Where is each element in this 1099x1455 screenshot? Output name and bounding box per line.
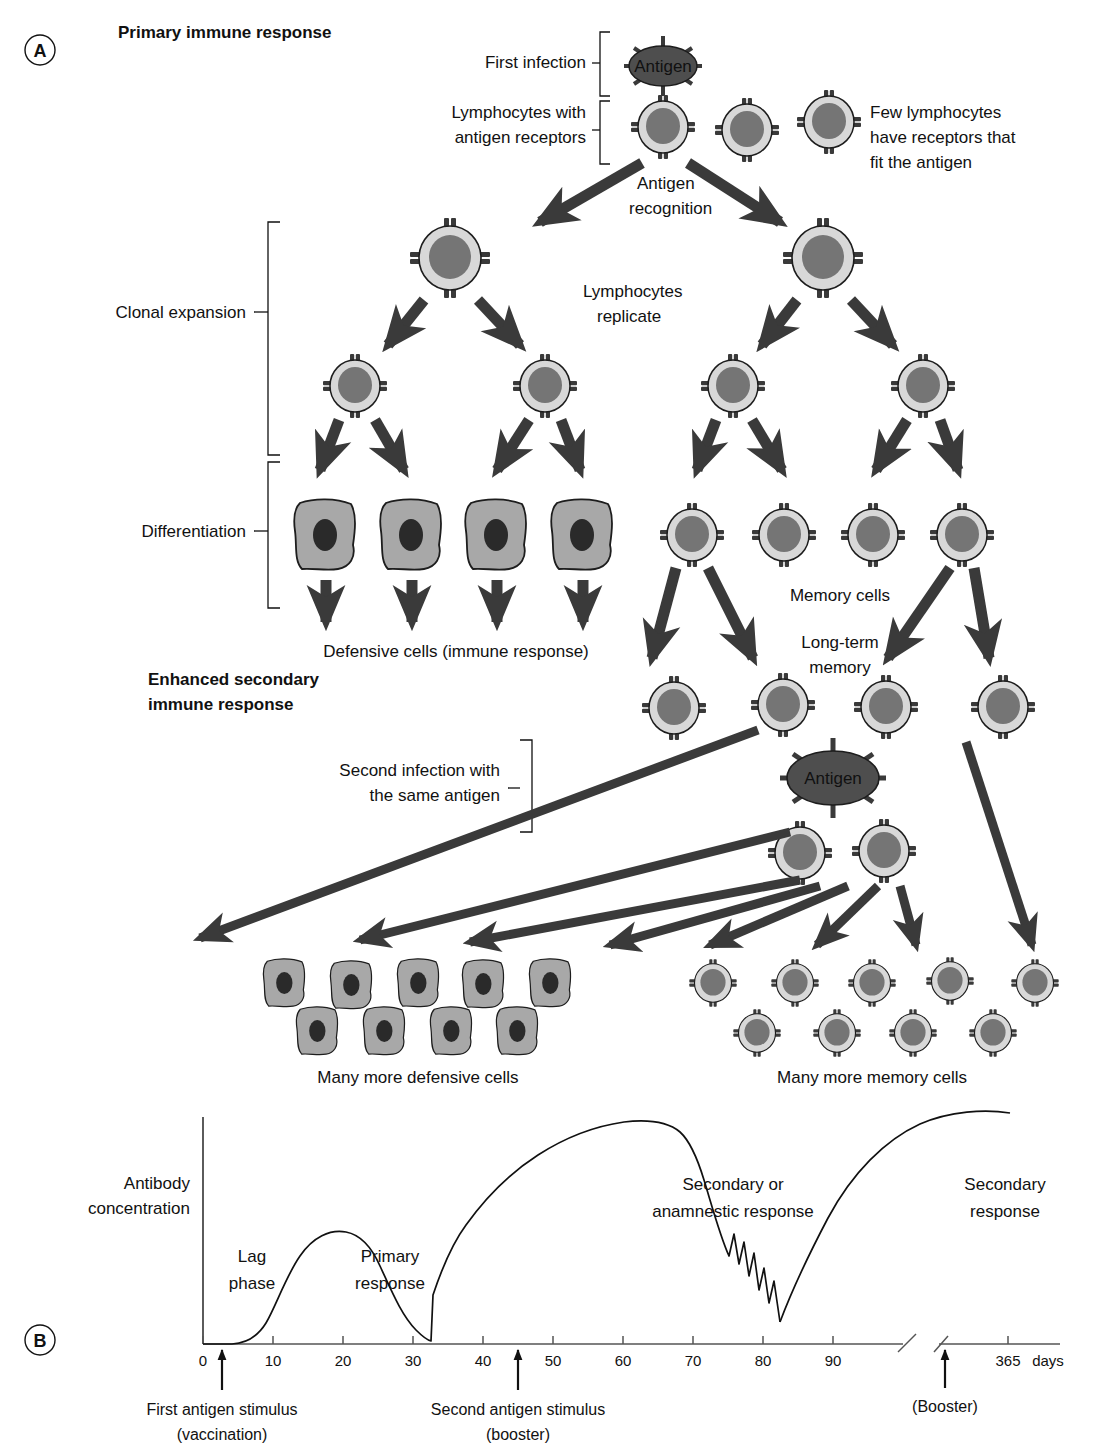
few-lymphocytes-line3: fit the antigen — [870, 153, 972, 172]
many-defensive-cell-3 — [397, 959, 438, 1007]
long-term-memory-cell-3 — [854, 675, 918, 739]
lymphocytes-replicate-line2: replicate — [597, 307, 661, 326]
arrow-left-g2-a2 — [375, 420, 404, 470]
annotation-anamnestic-line2: anamnestic response — [652, 1202, 814, 1221]
arrow-left-g2-b1 — [497, 420, 529, 470]
annotation-anamnestic-line1: Secondary or — [682, 1175, 783, 1194]
xtick-365: 365 — [995, 1352, 1020, 1369]
many-defensive-cell-7 — [363, 1007, 404, 1055]
chart-xlabel-days: days — [1032, 1352, 1064, 1369]
panel-letter-a: A — [25, 35, 55, 65]
arrow-recognition-left — [540, 163, 642, 222]
lymphocyte-unbound-2 — [797, 90, 861, 154]
enhanced-secondary-heading-line2: immune response — [148, 695, 294, 714]
many-memory-cell-7 — [813, 1009, 860, 1056]
antigen-top: Antigen — [624, 36, 702, 96]
arrow-left-g2-b2 — [561, 420, 580, 470]
lymphocytes-receptors-label-line2: antigen receptors — [455, 128, 586, 147]
lymphocyte-clone-left-gen2-b — [513, 354, 577, 418]
arrow-right-g2-a1 — [697, 420, 716, 470]
many-memory-cell-8 — [889, 1009, 936, 1056]
marker-second-stimulus-line1: Second antigen stimulus — [431, 1401, 605, 1418]
many-defensive-cell-5 — [529, 959, 570, 1007]
many-defensive-cell-9 — [496, 1007, 537, 1055]
annotation-lag-line2: phase — [229, 1274, 275, 1293]
xtick-30: 30 — [405, 1352, 422, 1369]
xtick-60: 60 — [615, 1352, 632, 1369]
many-defensive-cell-8 — [430, 1007, 471, 1055]
many-memory-cell-1 — [689, 959, 736, 1006]
many-memory-cell-3 — [848, 959, 895, 1006]
long-term-memory-cell-2 — [751, 673, 815, 737]
defensive-cell-2 — [380, 499, 441, 569]
long-term-memory-cell-4 — [971, 675, 1035, 739]
lymphocytes-bracket — [600, 101, 610, 164]
panel-b-letter: B — [34, 1331, 47, 1351]
arrow-right-g2-a2 — [752, 420, 782, 470]
arrow-left-g1-b — [478, 300, 520, 345]
annotation-primary-line2: response — [355, 1274, 425, 1293]
arrow-right-g1-b — [851, 300, 893, 345]
arrow-secondary-mem-4 — [966, 742, 1032, 945]
lymphocyte-clone-left-gen2-a — [323, 354, 387, 418]
arrow-mem-1b — [708, 568, 753, 658]
many-defensive-cell-1 — [263, 959, 304, 1007]
memory-cell-4 — [930, 503, 994, 567]
chart-x-ticks — [203, 1336, 1008, 1344]
first-infection-bracket — [600, 32, 610, 96]
memory-cells-label: Memory cells — [790, 586, 890, 605]
arrow-mem-4a — [888, 568, 950, 658]
lymphocyte-clone-right-gen2-a — [701, 354, 765, 418]
xtick-90: 90 — [825, 1352, 842, 1369]
lymphocyte-bound — [631, 95, 695, 159]
xtick-20: 20 — [335, 1352, 352, 1369]
arrow-secondary-mem-3 — [900, 886, 916, 945]
lymphocyte-clone-right-gen1 — [783, 218, 863, 298]
annotation-secondary-line1: Secondary — [964, 1175, 1046, 1194]
memory-cell-3 — [841, 503, 905, 567]
activated-memory-cell-2 — [852, 819, 916, 883]
long-term-memory-line2: memory — [809, 658, 871, 677]
xtick-70: 70 — [685, 1352, 702, 1369]
arrow-right-g1-a — [762, 300, 797, 345]
defensive-cell-3 — [465, 499, 526, 569]
defensive-cell-1 — [294, 499, 355, 569]
many-memory-cell-9 — [969, 1009, 1016, 1056]
chart-ylabel-line2: concentration — [88, 1199, 190, 1218]
second-infection-line1: Second infection with — [339, 761, 500, 780]
marker-second-stimulus-line2: (booster) — [486, 1426, 550, 1443]
many-memory-cell-2 — [771, 959, 818, 1006]
annotation-primary-line1: Primary — [361, 1247, 420, 1266]
lymphocyte-clone-right-gen2-b — [891, 354, 955, 418]
clonal-expansion-label: Clonal expansion — [116, 303, 246, 322]
many-defensive-cell-2 — [330, 961, 371, 1009]
lymphocytes-replicate-line1: Lymphocytes — [583, 282, 683, 301]
chart-curve-primary-secondary — [203, 1121, 780, 1344]
xtick-50: 50 — [545, 1352, 562, 1369]
xtick-40: 40 — [475, 1352, 492, 1369]
antigen-second: Antigen — [780, 738, 886, 818]
many-more-defensive-label: Many more defensive cells — [317, 1068, 518, 1087]
defensive-cell-4 — [551, 499, 612, 569]
first-infection-label: First infection — [485, 53, 586, 72]
xtick-10: 10 — [265, 1352, 282, 1369]
memory-cell-1 — [660, 503, 724, 567]
antigen-recognition-line2: recognition — [629, 199, 712, 218]
xtick-80: 80 — [755, 1352, 772, 1369]
few-lymphocytes-line1: Few lymphocytes — [870, 103, 1001, 122]
marker-first-stimulus-line2: (vaccination) — [177, 1426, 268, 1443]
differentiation-bracket — [268, 462, 280, 608]
defensive-cells-label: Defensive cells (immune response) — [323, 642, 589, 661]
xtick-0: 0 — [199, 1352, 207, 1369]
marker-first-stimulus-line1: First antigen stimulus — [146, 1401, 297, 1418]
arrow-left-g1-a — [388, 300, 424, 345]
chart-ylabel-line1: Antibody — [124, 1174, 191, 1193]
many-memory-cell-5 — [1011, 959, 1058, 1006]
panel-letter-b: B — [25, 1325, 55, 1355]
arrow-mem-1a — [652, 568, 676, 658]
primary-immune-response-heading: Primary immune response — [118, 23, 332, 42]
differentiation-label: Differentiation — [141, 522, 246, 541]
arrow-left-g2-a1 — [320, 420, 339, 470]
antigen-top-label: Antigen — [634, 57, 692, 76]
many-memory-cell-4 — [926, 957, 973, 1004]
